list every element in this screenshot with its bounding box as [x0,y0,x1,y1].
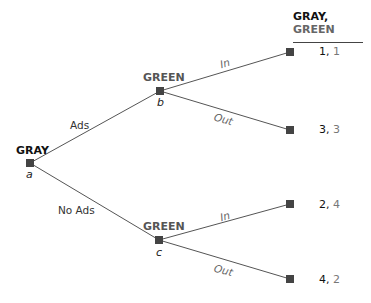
decision-node-a [26,159,34,167]
payoff-3: 2, 4 [319,198,340,211]
player-label-green-c: GREEN [143,220,185,233]
node-id-b: b [157,96,164,109]
terminal-node-2 [286,126,294,134]
node-id-c: c [156,246,162,259]
player-label-green-b: GREEN [143,71,185,84]
game-tree-lines [0,0,371,303]
payoff-4: 4, 2 [319,273,340,286]
header-player1: GRAY [293,10,324,23]
branch-label-ads: Ads [70,119,89,131]
branch-label-no-ads: No Ads [58,204,95,216]
terminal-node-1 [286,48,294,56]
terminal-node-3 [286,200,294,208]
decision-node-c [155,236,163,244]
terminal-node-4 [286,275,294,283]
node-id-a: a [26,168,33,181]
decision-node-b [156,87,164,95]
payoff-1: 1, 1 [319,45,340,58]
payoff-header: GRAY, GREEN [293,10,363,43]
player-label-gray: GRAY [16,144,49,157]
payoff-2: 3, 3 [319,123,340,136]
header-player2: GREEN [293,23,335,36]
